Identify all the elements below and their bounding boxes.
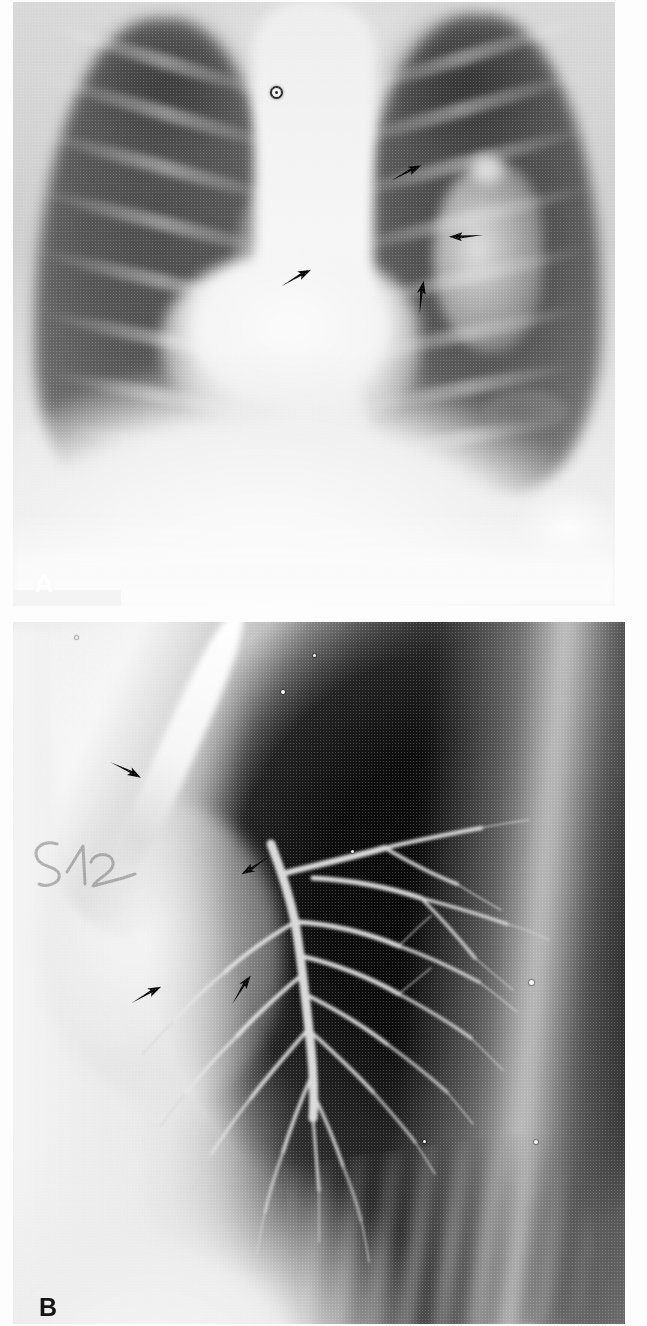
film-speck <box>351 850 354 853</box>
sub-diaphragmatic-mottling <box>483 390 569 432</box>
film-speck <box>534 1140 538 1144</box>
label-patch-a <box>13 590 121 606</box>
film-speck <box>281 690 285 694</box>
panel-label-b: B <box>39 1295 58 1320</box>
panel-b-lateral-bronchogram: B <box>13 622 625 1324</box>
film-speck <box>423 1140 426 1143</box>
film-speck <box>529 980 534 985</box>
left-hilum <box>433 162 543 352</box>
radiograph-figure: A <box>0 0 647 1326</box>
film-speck <box>75 636 78 639</box>
skin-marker-dot <box>272 88 281 97</box>
panel-label-a: A <box>35 571 54 596</box>
hilar-nodular-opacity <box>465 150 509 190</box>
panel-a-pa-chest-radiograph: A <box>13 2 615 606</box>
film-speck <box>313 654 316 657</box>
